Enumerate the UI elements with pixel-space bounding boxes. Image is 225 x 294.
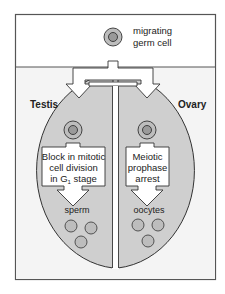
oocytes-label: oocytes [133,205,165,215]
germ-cell-fate-diagram: migrating germ cell Testis Ovary Block i… [0,0,225,294]
ovary-box-line1: Meiotic [132,151,162,162]
ovary-box-line2: prophase [128,162,168,173]
ovary-box-line3: arrest [135,173,160,184]
testis-box-line1: Block in mitotic [42,151,106,162]
ovary-title: Ovary [178,99,207,110]
sperm-label: sperm [64,205,89,215]
testis-title: Testis [30,99,59,110]
testis-box-line3: in G1 stage [50,173,97,185]
testis-box-line2: cell division [49,162,98,173]
migrating-label-line2: germ cell [133,37,172,48]
ovary-germ-cell-icon [138,121,156,139]
migrating-germ-cell-icon [104,28,122,46]
migrating-label-line1: migrating [133,25,172,36]
testis-germ-cell-icon [64,121,82,139]
